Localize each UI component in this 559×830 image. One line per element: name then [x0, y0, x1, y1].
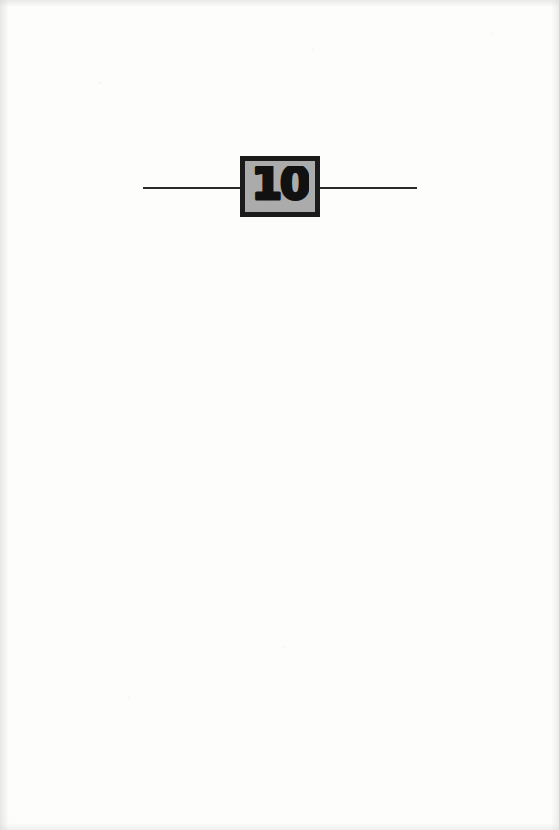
chapter-number-graphic: 10	[251, 166, 309, 208]
chapter-divider: 10	[0, 156, 559, 218]
paper-texture	[0, 0, 559, 830]
chapter-number-text: 10	[251, 166, 309, 208]
left-rule	[143, 187, 243, 189]
right-rule	[317, 187, 417, 189]
paper-speckle	[0, 0, 559, 830]
chapter-number-badge: 10	[240, 156, 320, 217]
chapter-divider-page: 10	[0, 0, 559, 830]
